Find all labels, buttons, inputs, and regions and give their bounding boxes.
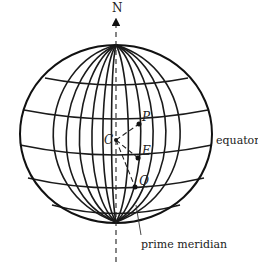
point-p (137, 122, 142, 127)
prime-meridian-label: prime meridian (141, 238, 227, 251)
point-c (114, 138, 118, 142)
vector-cq (116, 140, 135, 187)
globe-diagram: N C P E Q equator prime meridian (0, 0, 258, 270)
north-label: N (112, 1, 123, 15)
label-p: P (141, 110, 151, 124)
label-e: E (141, 144, 151, 158)
label-c: C (104, 133, 113, 147)
meridian-lines (53, 45, 180, 222)
label-q: Q (139, 174, 149, 188)
point-q (133, 185, 138, 190)
point-e (136, 156, 141, 161)
equator-label: equator (216, 134, 258, 147)
